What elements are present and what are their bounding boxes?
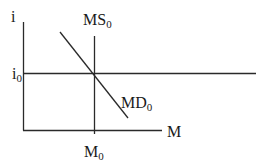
money-demand-label: MD0: [121, 94, 153, 113]
equilibrium-quantity-label-base: M: [84, 143, 98, 160]
y-axis-label: i: [11, 8, 16, 25]
equilibrium-quantity-label-sub: 0: [98, 150, 104, 162]
money-market-diagram: i M MS0 MD0 i0 M0: [0, 0, 266, 168]
money-supply-label-sub: 0: [106, 18, 112, 30]
equilibrium-quantity-label: M0: [84, 143, 104, 162]
equilibrium-rate-label: i0: [12, 65, 22, 84]
x-axis-label: M: [167, 123, 181, 140]
money-supply-label: MS0: [83, 11, 112, 30]
money-demand-label-base: MD: [121, 94, 147, 111]
money-demand-label-sub: 0: [147, 101, 153, 113]
money-supply-label-base: MS: [83, 11, 106, 28]
equilibrium-rate-label-sub: 0: [16, 72, 22, 84]
